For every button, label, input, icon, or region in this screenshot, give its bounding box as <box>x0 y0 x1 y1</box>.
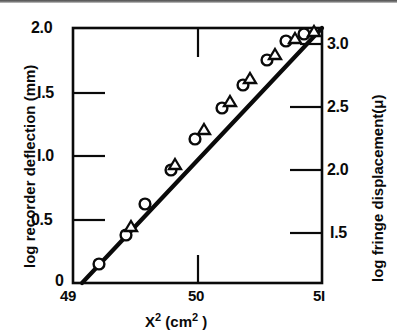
y2-axis-title: log fringe displacement(μ) <box>370 94 385 282</box>
x-axis-title-unit-open: (cm <box>161 313 192 330</box>
xtick-label-49: 49 <box>60 288 76 303</box>
x-axis-title: X2 (cm2 ) <box>145 312 207 329</box>
x-axis-title-unit-close: ) <box>198 313 207 330</box>
marker-triangle <box>125 221 137 231</box>
series-triangles <box>125 26 320 231</box>
y2tick-label-1-5: I.5 <box>330 225 347 241</box>
figure-canvas: 2.0 I.5 I.0 0.5 0 3.0 2.5 2.0 I.5 49 50 … <box>0 0 397 336</box>
marker-circle <box>299 29 310 40</box>
marker-triangle <box>269 49 281 59</box>
series-circles <box>94 29 310 270</box>
marker-triangle <box>224 96 236 106</box>
marker-triangle <box>198 124 210 134</box>
marker-circle <box>140 199 151 210</box>
marker-circle <box>94 259 105 270</box>
ytick-label-1-0: I.0 <box>37 148 54 164</box>
marker-triangle <box>169 159 181 169</box>
xtick-label-51: 5I <box>313 288 325 303</box>
ytick-label-2-0: 2.0 <box>31 20 52 36</box>
y2tick-label-2-5: 2.5 <box>327 99 348 115</box>
marker-circle <box>190 134 201 145</box>
y2tick-label-3-0: 3.0 <box>327 36 348 52</box>
left-axis-ticks <box>73 93 105 220</box>
marker-triangle <box>244 73 256 83</box>
right-axis-ticks <box>290 44 322 233</box>
y2tick-label-2-0: 2.0 <box>327 162 348 178</box>
fit-line <box>82 28 322 283</box>
y-axis-title: log recorder deflection (mm) <box>22 65 37 268</box>
xtick-label-50: 50 <box>188 288 204 303</box>
ytick-label-1-5: I.5 <box>37 85 54 101</box>
x-axis-title-base: X <box>145 313 155 330</box>
